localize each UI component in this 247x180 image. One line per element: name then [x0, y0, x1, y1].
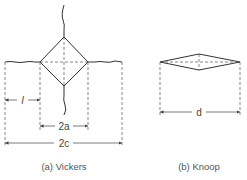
label-l: l — [21, 95, 24, 106]
top-crack — [62, 5, 64, 37]
indentation-diagram: l 2a 2c (a) Vickers d (b) Knoop — [0, 0, 247, 180]
label-2a: 2a — [58, 121, 70, 132]
vickers-panel: l 2a 2c (a) Vickers — [5, 5, 122, 172]
label-2c: 2c — [59, 138, 70, 149]
knoop-panel: d (b) Knoop — [160, 54, 240, 172]
caption-vickers: (a) Vickers — [41, 161, 86, 172]
left-crack — [5, 62, 40, 63]
caption-knoop: (b) Knoop — [178, 161, 220, 172]
bottom-crack — [64, 86, 66, 115]
right-crack — [88, 61, 122, 62]
label-d: d — [196, 107, 202, 118]
